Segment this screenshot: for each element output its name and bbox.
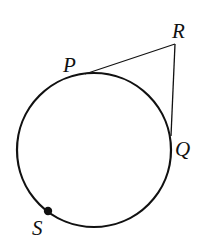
tangent-segment-rq bbox=[171, 44, 175, 136]
label-q: Q bbox=[175, 137, 190, 161]
tangent-segment-pr bbox=[85, 44, 175, 74]
point-s-dot bbox=[44, 207, 52, 215]
tangent-circle-diagram: P Q R S bbox=[0, 0, 212, 238]
label-s: S bbox=[32, 216, 43, 238]
label-p: P bbox=[62, 53, 76, 77]
circle bbox=[17, 73, 171, 227]
label-r: R bbox=[171, 19, 185, 43]
